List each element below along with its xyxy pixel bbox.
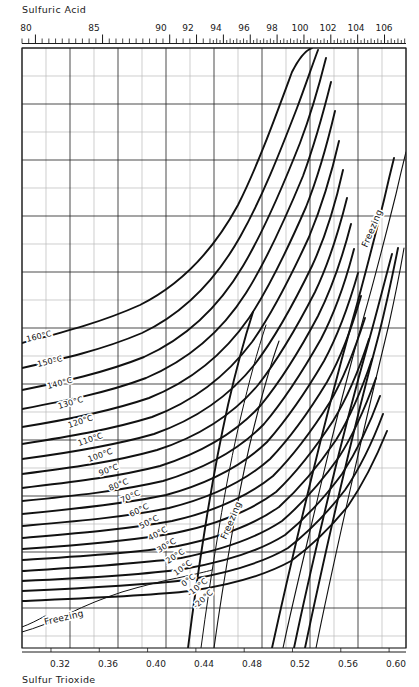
bottom-axis-title: Sulfur Trioxide bbox=[22, 674, 96, 685]
top-tick-label: 85 bbox=[88, 23, 99, 33]
bottom-tick-label: 0.32 bbox=[50, 659, 70, 669]
bottom-tick-label: 0.44 bbox=[194, 659, 214, 669]
top-tick-label: 106 bbox=[375, 23, 392, 33]
top-tick-label: 96 bbox=[238, 23, 250, 33]
top-tick-label: 104 bbox=[347, 23, 364, 33]
bottom-tick-label: 0.60 bbox=[386, 659, 406, 669]
top-tick-label: 94 bbox=[210, 23, 222, 33]
bottom-tick-label: 0.36 bbox=[98, 659, 118, 669]
chart-canvas: Sulfuric Acid 80 85 90 92 94 96 98 100 1… bbox=[0, 0, 419, 687]
chart-root: Sulfuric Acid 80 85 90 92 94 96 98 100 1… bbox=[0, 0, 419, 687]
top-axis-title: Sulfuric Acid bbox=[22, 4, 86, 15]
top-tick-label: 90 bbox=[155, 23, 167, 33]
top-tick-label: 102 bbox=[319, 23, 336, 33]
top-tick-label: 100 bbox=[291, 23, 308, 33]
bottom-tick-label: 0.56 bbox=[338, 659, 358, 669]
bottom-tick-label: 0.48 bbox=[242, 659, 262, 669]
top-tick-label: 92 bbox=[182, 23, 193, 33]
bottom-tick-label: 0.52 bbox=[290, 659, 310, 669]
top-tick-label: 98 bbox=[266, 23, 278, 33]
top-tick-label: 80 bbox=[20, 23, 32, 33]
bottom-tick-label: 0.40 bbox=[146, 659, 166, 669]
